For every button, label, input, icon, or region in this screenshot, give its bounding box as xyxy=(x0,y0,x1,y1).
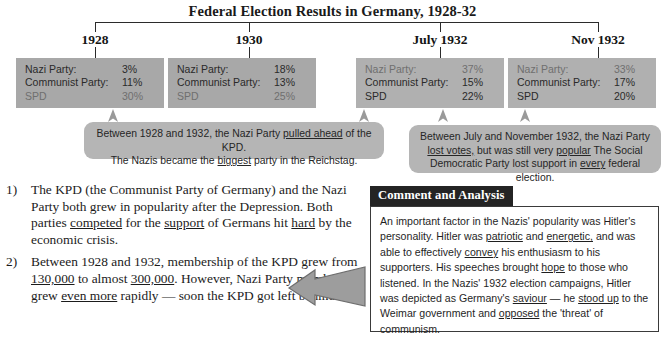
results-box-1928: Nazi Party: 3% Communist Party: 11% SPD … xyxy=(16,58,164,108)
callout-right-line1: Between July and November 1932, the Nazi… xyxy=(416,130,654,144)
table-row: Communist Party: 17% xyxy=(517,76,648,89)
party-percent: 20% xyxy=(614,90,648,103)
stem-1930-bottom xyxy=(249,47,250,58)
party-percent: 3% xyxy=(122,63,156,76)
party-percent: 17% xyxy=(614,76,648,89)
stem-nov1932-bottom xyxy=(598,47,599,58)
results-box-nov-1932: Nazi Party: 33% Communist Party: 17% SPD… xyxy=(508,58,656,108)
party-name: Communist Party: xyxy=(365,76,448,89)
party-name: SPD xyxy=(177,90,199,103)
comment-analysis-body: An important factor in the Nazis' popula… xyxy=(370,206,659,332)
callout-left-line1: Between 1928 and 1932, the Nazi Party pu… xyxy=(91,127,377,154)
callout-left-line2: The Nazis became the biggest party in th… xyxy=(91,154,377,168)
year-label-1930: 1930 xyxy=(209,32,289,48)
table-row: Nazi Party: 33% xyxy=(517,63,648,76)
table-row: SPD 30% xyxy=(25,90,156,103)
results-box-1930: Nazi Party: 18% Communist Party: 13% SPD… xyxy=(168,58,316,108)
party-name: SPD xyxy=(365,90,387,103)
callout-left: Between 1928 and 1932, the Nazi Party pu… xyxy=(84,122,384,159)
party-percent: 18% xyxy=(274,63,308,76)
table-row: Communist Party: 11% xyxy=(25,76,156,89)
party-name: Communist Party: xyxy=(517,76,600,89)
party-name: Nazi Party: xyxy=(25,63,76,76)
comment-analysis-header: Comment and Analysis xyxy=(370,186,513,206)
table-row: Nazi Party: 3% xyxy=(25,63,156,76)
party-percent: 22% xyxy=(462,90,496,103)
stem-july1932-bottom xyxy=(440,47,441,58)
party-percent: 13% xyxy=(274,76,308,89)
table-row: SPD 22% xyxy=(365,90,496,103)
up-arrow-icon-nov-1932 xyxy=(516,108,534,126)
list-item: 1) The KPD (the Communist Party of Germa… xyxy=(6,182,366,248)
election-results-infographic: Federal Election Results in Germany, 192… xyxy=(0,0,665,338)
year-label-nov-1932: Nov 1932 xyxy=(550,32,646,48)
party-percent: 37% xyxy=(462,63,496,76)
results-box-july-1932: Nazi Party: 37% Communist Party: 15% SPD… xyxy=(356,58,504,108)
party-percent: 15% xyxy=(462,76,496,89)
list-item-number: 2) xyxy=(6,254,31,304)
party-percent: 25% xyxy=(274,90,308,103)
party-name: SPD xyxy=(25,90,47,103)
table-row: SPD 20% xyxy=(517,90,648,103)
table-row: Nazi Party: 37% xyxy=(365,63,496,76)
stem-july1932-top xyxy=(440,22,441,32)
year-label-july-1932: July 1932 xyxy=(390,32,490,48)
party-name: Communist Party: xyxy=(25,76,108,89)
year-label-1928: 1928 xyxy=(55,32,135,48)
party-name: Nazi Party: xyxy=(177,63,228,76)
callout-right-line2: lost votes, but was still very popular T… xyxy=(416,144,654,158)
up-arrow-icon-july-1932-right xyxy=(434,108,452,126)
party-percent: 33% xyxy=(614,63,648,76)
party-name: Communist Party: xyxy=(177,76,260,89)
page-title: Federal Election Results in Germany, 192… xyxy=(0,3,665,20)
stem-1928-top xyxy=(95,22,96,32)
party-name: Nazi Party: xyxy=(365,63,416,76)
party-percent: 30% xyxy=(122,90,156,103)
party-name: SPD xyxy=(517,90,539,103)
list-item-text: The KPD (the Communist Party of Germany)… xyxy=(31,182,366,248)
list-item-number: 1) xyxy=(6,182,31,248)
table-row: Communist Party: 13% xyxy=(177,76,308,89)
bracket-horizontal-line xyxy=(95,22,598,23)
party-percent: 11% xyxy=(122,76,156,89)
stem-1930-top xyxy=(249,22,250,32)
stem-1928-bottom xyxy=(95,47,96,58)
table-row: SPD 25% xyxy=(177,90,308,103)
callout-right: Between July and November 1932, the Nazi… xyxy=(409,125,661,173)
table-row: Nazi Party: 18% xyxy=(177,63,308,76)
table-row: Communist Party: 15% xyxy=(365,76,496,89)
callout-right-line3: Democratic Party lost support in every f… xyxy=(416,157,654,184)
large-left-arrow-icon xyxy=(285,262,369,312)
stem-nov1932-top xyxy=(598,22,599,32)
party-name: Nazi Party: xyxy=(517,63,568,76)
